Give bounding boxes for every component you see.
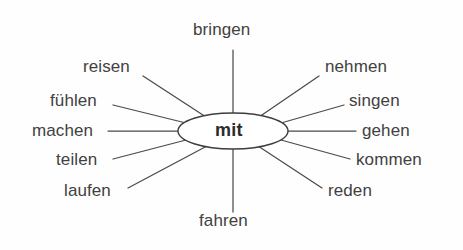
node-label-fühlen: fühlen bbox=[50, 91, 97, 110]
word-web-diagram: bringenreisennehmenfühlensingenmachengeh… bbox=[0, 0, 463, 250]
node-label-fahren: fahren bbox=[199, 211, 248, 230]
node-label-gehen: gehen bbox=[362, 121, 410, 140]
node-label-kommen: kommen bbox=[356, 150, 422, 169]
spoke-line-reden bbox=[258, 146, 322, 188]
center-node-label: mit bbox=[215, 120, 243, 141]
node-label-reden: reden bbox=[328, 181, 372, 200]
node-label-bringen: bringen bbox=[193, 20, 250, 39]
node-label-machen: machen bbox=[32, 121, 93, 140]
spoke-line-singen bbox=[281, 105, 344, 123]
node-label-reisen: reisen bbox=[83, 57, 130, 76]
node-label-teilen: teilen bbox=[56, 150, 97, 169]
spoke-line-nehmen bbox=[259, 76, 319, 117]
spoke-line-fühlen bbox=[113, 105, 186, 123]
node-label-nehmen: nehmen bbox=[325, 57, 387, 76]
spoke-line-kommen bbox=[281, 140, 350, 159]
spoke-line-teilen bbox=[113, 140, 186, 159]
spoke-line-reisen bbox=[143, 76, 206, 117]
node-label-laufen: laufen bbox=[64, 181, 111, 200]
node-label-singen: singen bbox=[349, 91, 400, 110]
